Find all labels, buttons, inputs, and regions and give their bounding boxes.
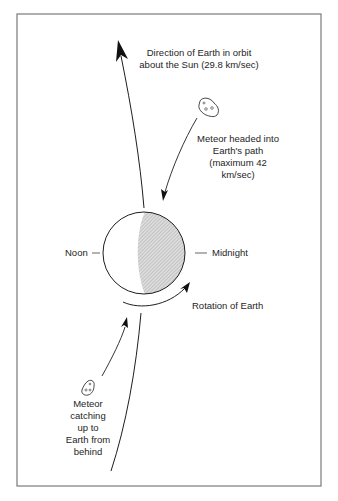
meteor-ahead-arrowhead-icon	[161, 189, 168, 201]
midnight-label: Midnight	[212, 247, 248, 259]
meteor-behind-line3: up to	[58, 422, 118, 434]
meteor-behind-trajectory	[102, 327, 125, 376]
meteor-behind-line1: Meteor	[58, 398, 118, 410]
earth-icon	[103, 210, 190, 297]
meteor-behind-line4: Earth from	[58, 434, 118, 446]
meteor-behind-line5: behind	[58, 446, 118, 458]
meteor-ahead-line2: Earth's path	[186, 145, 290, 157]
rotation-label: Rotation of Earth	[192, 300, 263, 312]
meteor-earth-diagram	[0, 0, 338, 501]
meteor-lower-icon	[82, 380, 94, 395]
meteor-upper-icon	[199, 98, 219, 116]
meteor-ahead-label: Meteor headed into Earth's path (maximum…	[186, 133, 290, 181]
meteor-behind-label: Meteor catching up to Earth from behind	[58, 398, 118, 458]
meteor-behind-arrowhead-icon	[121, 317, 128, 328]
meteor-ahead-line4: km/sec)	[186, 169, 290, 181]
orbit-direction-label: Direction of Earth in orbit about the Su…	[138, 47, 260, 71]
orbit-direction-line2: about the Sun (29.8 km/sec)	[138, 59, 260, 71]
orbit-direction-line1: Direction of Earth in orbit	[138, 47, 260, 59]
meteor-ahead-line1: Meteor headed into	[186, 133, 290, 145]
orbit-path-upper	[121, 56, 144, 208]
meteor-ahead-line3: (maximum 42	[186, 157, 290, 169]
meteor-behind-line2: catching	[58, 410, 118, 422]
noon-label: Noon	[65, 247, 88, 259]
